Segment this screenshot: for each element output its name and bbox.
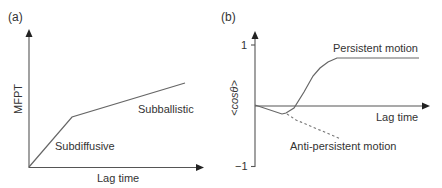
panel-a-ylabel: MFPT (12, 84, 24, 114)
panel-a: (a) MFPT Lag time Subdiffusive Subballis… (8, 10, 204, 184)
panel-a-x-axis-arrow-icon (196, 164, 204, 171)
panel-b-tag: (b) (221, 10, 236, 24)
panel-a-label-subdiffusive: Subdiffusive (55, 140, 115, 152)
panel-b-tick-label-top: 1 (241, 39, 247, 51)
panel-b-label-persistent: Persistent motion (333, 42, 418, 54)
panel-a-y-axis-arrow-icon (26, 29, 33, 37)
panel-a-label-subballistic: Subballistic (138, 103, 194, 115)
panel-b-anti-persistent-curve (287, 114, 341, 139)
panel-b-ylabel: <cosθ> (228, 79, 240, 116)
panel-a-mfpt-curve (29, 83, 185, 167)
panel-a-tag: (a) (8, 10, 23, 24)
panel-b-x-axis-arrow-icon (422, 103, 430, 110)
panel-a-xlabel: Lag time (97, 172, 139, 184)
panel-b: (b) 1 −1 <cosθ> Lag time Persistent moti… (221, 10, 430, 172)
panel-b-y-axis-arrow-icon (252, 31, 259, 39)
panel-b-xlabel: Lag time (376, 111, 418, 123)
panel-b-tick-label-bottom: −1 (235, 160, 248, 172)
panel-b-label-anti-persistent: Anti-persistent motion (290, 140, 396, 152)
figure: (a) MFPT Lag time Subdiffusive Subballis… (0, 0, 442, 188)
